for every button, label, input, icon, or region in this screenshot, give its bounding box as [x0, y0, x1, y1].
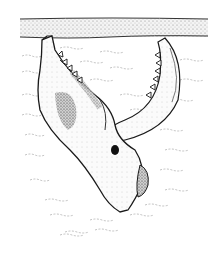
- foramen: [111, 145, 119, 155]
- sediment-band: [20, 18, 208, 38]
- illustration-svg: [0, 0, 216, 267]
- jaw-illustration: [0, 0, 216, 267]
